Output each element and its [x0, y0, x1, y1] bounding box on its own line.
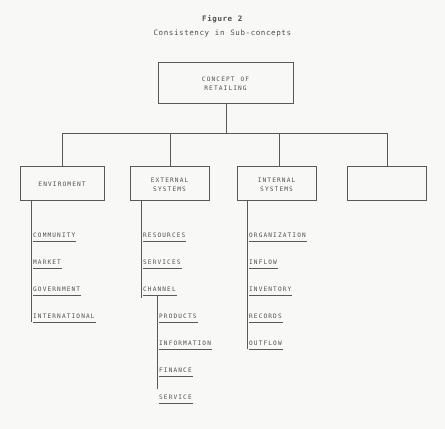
leaf-government[interactable]: GOVERNMENT	[33, 284, 81, 296]
node-enviroment[interactable]: ENVIROMENT	[20, 166, 105, 201]
leaf-services[interactable]: SERVICES	[143, 257, 182, 269]
spine-internal-systems	[247, 201, 248, 325]
spine-channel	[157, 296, 158, 389]
node-external-systems-label: EXTERNAL SYSTEMS	[151, 175, 190, 193]
leaf-channel[interactable]: CHANNEL	[143, 284, 177, 296]
spine-internal-systems-ext	[247, 325, 248, 349]
node-internal-systems-label: INTERNAL SYSTEMS	[258, 175, 297, 193]
node-concept-of-retailing[interactable]: CONCEPT OF RETAILING	[158, 62, 294, 104]
leaf-products[interactable]: PRODUCTS	[159, 311, 198, 323]
leaf-resources[interactable]: RESOURCES	[143, 230, 186, 242]
leaf-records[interactable]: RECORDS	[249, 311, 283, 323]
leaf-information[interactable]: INFORMATION	[159, 338, 212, 350]
leaf-community[interactable]: COMMUNITY	[33, 230, 76, 242]
leaf-inflow[interactable]: INFLOW	[249, 257, 278, 269]
connector-bus	[62, 133, 387, 134]
leaf-organization[interactable]: ORGANIZATION	[249, 230, 307, 242]
leaf-service[interactable]: SERVICE	[159, 392, 193, 404]
leaf-market[interactable]: MARKET	[33, 257, 62, 269]
figure-title: Figure 2	[0, 14, 445, 23]
node-enviroment-label: ENVIROMENT	[38, 179, 86, 188]
figure-canvas: Figure 2 Consistency in Sub-concepts CON…	[0, 0, 445, 429]
leaf-international[interactable]: INTERNATIONAL	[33, 311, 96, 323]
figure-subtitle: Consistency in Sub-concepts	[0, 28, 445, 37]
connector-root-stem	[226, 104, 227, 133]
node-empty[interactable]	[347, 166, 427, 201]
connector-drop-2	[170, 133, 171, 166]
node-internal-systems[interactable]: INTERNAL SYSTEMS	[237, 166, 317, 201]
leaf-finance[interactable]: FINANCE	[159, 365, 193, 377]
leaf-inventory[interactable]: INVENTORY	[249, 284, 292, 296]
node-external-systems[interactable]: EXTERNAL SYSTEMS	[130, 166, 210, 201]
connector-drop-1	[62, 133, 63, 166]
connector-drop-4	[387, 133, 388, 166]
spine-external-systems	[141, 201, 142, 298]
leaf-outflow[interactable]: OUTFLOW	[249, 338, 283, 350]
spine-enviroment	[31, 201, 32, 298]
node-concept-of-retailing-label: CONCEPT OF RETAILING	[202, 74, 250, 92]
spine-enviroment-ext	[31, 298, 32, 322]
connector-drop-3	[279, 133, 280, 166]
